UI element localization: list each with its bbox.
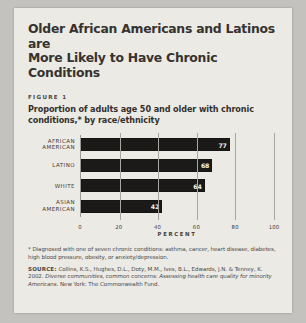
bar-value-label: 77 xyxy=(218,141,226,148)
page-title-line-2: More Likely to Have Chronic Conditions xyxy=(28,51,278,80)
chart-row: ASIAN AMERICAN42 xyxy=(81,200,274,213)
gridline xyxy=(158,133,159,220)
document-page: Older African Americans and Latinos are … xyxy=(14,8,292,313)
chart-plot-area: AFRICAN AMERICAN77LATINO68WHITE64ASIAN A… xyxy=(80,135,274,217)
chart-row: WHITE64 xyxy=(81,179,274,192)
category-label: LATINO xyxy=(15,162,75,169)
x-axis-tick-label: 40 xyxy=(154,224,161,230)
figure-subtitle-line-2: conditions,* by race/ethnicity xyxy=(28,115,278,125)
bar: 68 xyxy=(81,159,212,172)
source-publisher: New York: The Commonwealth Fund. xyxy=(60,281,159,287)
x-axis-tick-label: 60 xyxy=(193,224,200,230)
bar-value-label: 68 xyxy=(201,162,209,169)
bar: 42 xyxy=(81,200,162,213)
gridline xyxy=(274,133,275,220)
bar-chart: AFRICAN AMERICAN77LATINO68WHITE64ASIAN A… xyxy=(28,133,278,237)
scanned-page-background: Older African Americans and Latinos are … xyxy=(0,0,306,323)
category-label: ASIAN AMERICAN xyxy=(15,200,75,213)
x-axis-tick-label: 80 xyxy=(232,224,239,230)
category-label: AFRICAN AMERICAN xyxy=(15,138,75,151)
bar: 77 xyxy=(81,138,230,151)
chart-bars: AFRICAN AMERICAN77LATINO68WHITE64ASIAN A… xyxy=(81,135,274,217)
figure-notes: * Diagnosed with one of seven chronic co… xyxy=(28,246,276,288)
x-axis-tick-label: 100 xyxy=(269,224,280,230)
source-label: SOURCE: xyxy=(28,266,57,272)
gridline xyxy=(120,133,121,220)
bar: 64 xyxy=(81,179,205,192)
figure-subtitle-line-1: Proportion of adults age 50 and older wi… xyxy=(28,104,254,114)
figure-label: FIGURE 1 xyxy=(28,94,278,100)
page-title: Older African Americans and Latinos are … xyxy=(28,22,278,80)
x-axis-tick-label: 20 xyxy=(115,224,122,230)
figure-subtitle: Proportion of adults age 50 and older wi… xyxy=(28,104,278,125)
gridline xyxy=(235,133,236,220)
footnote-text: * Diagnosed with one of seven chronic co… xyxy=(28,246,276,261)
category-label: WHITE xyxy=(15,182,75,189)
chart-x-axis: 020406080100 xyxy=(80,224,274,225)
source-citation: SOURCE: Collins, K.S., Hughes, D.L., Dot… xyxy=(28,266,276,288)
x-axis-tick-label: 0 xyxy=(78,224,82,230)
chart-x-axis-title: PERCENT xyxy=(80,231,274,237)
chart-row: AFRICAN AMERICAN77 xyxy=(81,138,274,151)
chart-row: LATINO68 xyxy=(81,159,274,172)
page-title-line-1: Older African Americans and Latinos are xyxy=(28,21,275,51)
page-content: Older African Americans and Latinos are … xyxy=(28,22,278,288)
gridline xyxy=(197,133,198,220)
